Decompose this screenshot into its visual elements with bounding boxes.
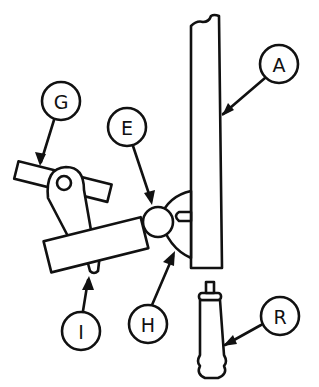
- label-e: E: [108, 108, 146, 146]
- label-a: A: [260, 45, 298, 83]
- arrowhead-g: [35, 152, 46, 166]
- label-i: I: [62, 312, 100, 350]
- label-r: R: [261, 297, 299, 335]
- arrowhead-e: [144, 190, 155, 205]
- svg-text:H: H: [141, 314, 155, 336]
- arrowhead-r: [223, 335, 237, 346]
- arrowhead-i: [82, 276, 94, 290]
- svg-text:E: E: [121, 117, 133, 139]
- svg-text:A: A: [273, 54, 286, 76]
- ball-joint: [143, 207, 173, 237]
- arrowhead-h: [163, 251, 175, 266]
- label-g: G: [42, 82, 80, 120]
- label-h: H: [129, 305, 167, 343]
- svg-text:R: R: [273, 306, 286, 328]
- svg-text:G: G: [54, 91, 69, 113]
- vertical-post: [191, 15, 222, 268]
- handle-peg: [206, 282, 214, 293]
- handle: [198, 300, 226, 378]
- pivot-peg: [176, 212, 191, 221]
- lever-hole: [57, 176, 71, 190]
- svg-text:I: I: [78, 321, 84, 343]
- parts-diagram: A G E H I R: [0, 0, 319, 387]
